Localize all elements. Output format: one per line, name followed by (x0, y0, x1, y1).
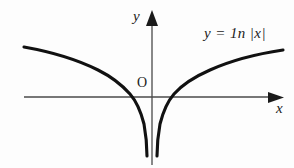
figure-canvas: y x O y = 1n |x| (0, 0, 294, 168)
y-axis-label: y (133, 9, 140, 24)
curve-left-branch (24, 47, 147, 156)
origin-label: O (137, 76, 147, 90)
function-equation-label: y = 1n |x| (204, 26, 266, 41)
x-axis-label: x (276, 101, 283, 116)
y-axis-arrowhead-icon (146, 10, 158, 26)
curve-right-branch (157, 50, 283, 156)
